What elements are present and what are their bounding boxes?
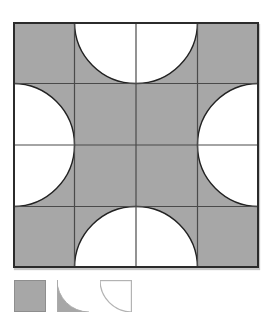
legend-row	[14, 280, 132, 312]
legend-shaded-square	[14, 280, 46, 312]
legend-quarter-circle-piece	[100, 280, 132, 312]
grid-circles-figure	[13, 22, 259, 268]
worksheet-page	[0, 0, 275, 318]
legend-concave-corner-piece	[57, 280, 89, 312]
legend-filled-square-shape	[15, 281, 46, 312]
legend-quarter-arc	[100, 280, 132, 312]
